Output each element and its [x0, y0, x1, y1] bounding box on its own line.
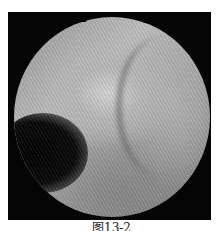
- endoscopic-image: [14, 17, 210, 217]
- figure-caption: 图13-2: [0, 221, 223, 231]
- image-frame: [8, 12, 211, 220]
- tissue-fold: [116, 37, 208, 177]
- figure: 图13-2: [0, 0, 223, 231]
